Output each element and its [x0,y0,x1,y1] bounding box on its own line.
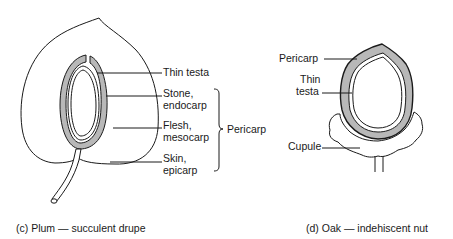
caption-plum: (c) Plum — succulent drupe [16,222,146,234]
label-endocarp: endocarp [163,99,207,111]
pericarp-bracket [214,89,223,171]
label-stone: Stone, [163,87,193,99]
oak-figure [322,44,423,172]
caption-oak: (d) Oak — indehiscent nut [306,222,428,234]
oak-cupule-stalk [375,156,383,172]
label-oak-testa: testa [296,85,319,97]
label-oak-thin: Thin [300,73,321,85]
plum-seed [71,70,96,136]
label-oak-pericarp: Pericarp [279,52,318,64]
plum-stalk [52,149,81,202]
label-flesh: Flesh, [163,119,192,131]
label-oak-cupule: Cupule [288,140,321,152]
plum-labels: Thin testa Stone, endocarp Flesh, mesoca… [16,66,266,234]
label-mesocarp: mesocarp [163,131,209,143]
label-epicarp: epicarp [163,164,198,176]
label-pericarp-bracket: Pericarp [227,123,266,135]
label-skin: Skin, [163,152,186,164]
label-thin-testa: Thin testa [163,66,209,78]
plum-stalk-end [51,199,57,203]
fruit-diagram: Thin testa Stone, endocarp Flesh, mesoca… [0,0,453,239]
